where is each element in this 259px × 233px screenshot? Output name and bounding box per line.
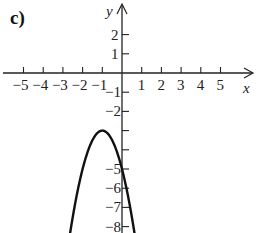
x-tick-label: −5 xyxy=(13,77,29,93)
x-tick-label: 1 xyxy=(138,77,146,93)
y-tick-label: −5 xyxy=(105,161,121,177)
x-tick-label: −2 xyxy=(72,77,88,93)
x-tick-label: 3 xyxy=(177,77,185,93)
x-tick-label: −3 xyxy=(52,77,68,93)
y-tick-label: 2 xyxy=(111,27,119,43)
y-axis-label: y xyxy=(104,3,113,19)
x-tick-label: 4 xyxy=(197,77,205,93)
y-tick-label: −7 xyxy=(105,199,121,215)
plot-canvas: c)xy−5−4−3−2−11234521−1−2−5−6−7−8 xyxy=(0,0,259,233)
parabola-curve xyxy=(69,131,136,233)
y-tick-label: −8 xyxy=(105,219,121,233)
x-axis-label: x xyxy=(242,80,250,96)
y-tick-label: −2 xyxy=(105,103,121,119)
graph-figure: c)xy−5−4−3−2−11234521−1−2−5−6−7−8 xyxy=(0,0,259,233)
panel-label: c) xyxy=(10,7,25,29)
x-tick-label: 5 xyxy=(217,77,225,93)
y-tick-label: 1 xyxy=(111,46,119,62)
x-tick-label: 2 xyxy=(157,77,165,93)
x-tick-label: −4 xyxy=(32,77,48,93)
y-tick-label: −6 xyxy=(105,180,121,196)
y-tick-label: −1 xyxy=(105,84,121,100)
